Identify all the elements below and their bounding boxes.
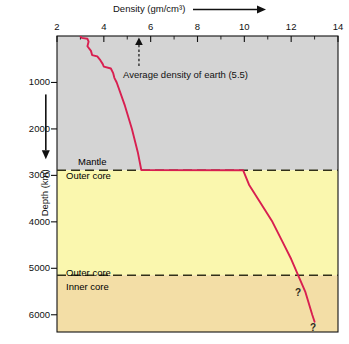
x-tick-label: 14 xyxy=(326,21,349,32)
region-outer-core xyxy=(57,170,338,275)
density-depth-chart: Density (gm/cm³) Depth (km) xyxy=(0,0,349,344)
layer-label-outer-core-lower: Outer core xyxy=(66,267,111,278)
question-mark-upper: ? xyxy=(295,287,301,298)
y-tick-label: 3000 xyxy=(16,169,50,180)
y-tick-marks xyxy=(51,82,57,314)
y-tick-label: 5000 xyxy=(16,262,50,273)
x-tick-label: 10 xyxy=(232,21,256,32)
y-tick-label: 1000 xyxy=(16,76,50,87)
layer-label-mantle: Mantle xyxy=(78,156,107,167)
y-tick-label: 6000 xyxy=(16,309,50,320)
x-tick-label: 6 xyxy=(139,21,163,32)
x-tick-label: 2 xyxy=(45,21,69,32)
question-mark-lower: ? xyxy=(310,322,316,333)
y-tick-label: 4000 xyxy=(16,216,50,227)
layer-label-outer-core-upper: Outer core xyxy=(66,170,111,181)
x-tick-label: 12 xyxy=(279,21,303,32)
region-mantle xyxy=(57,36,338,170)
x-tick-label: 4 xyxy=(92,21,116,32)
layer-label-inner-core: Inner core xyxy=(66,281,109,292)
average-density-annotation: Average density of earth (5.5) xyxy=(123,69,248,80)
y-tick-label: 2000 xyxy=(16,123,50,134)
x-tick-label: 8 xyxy=(186,21,210,32)
